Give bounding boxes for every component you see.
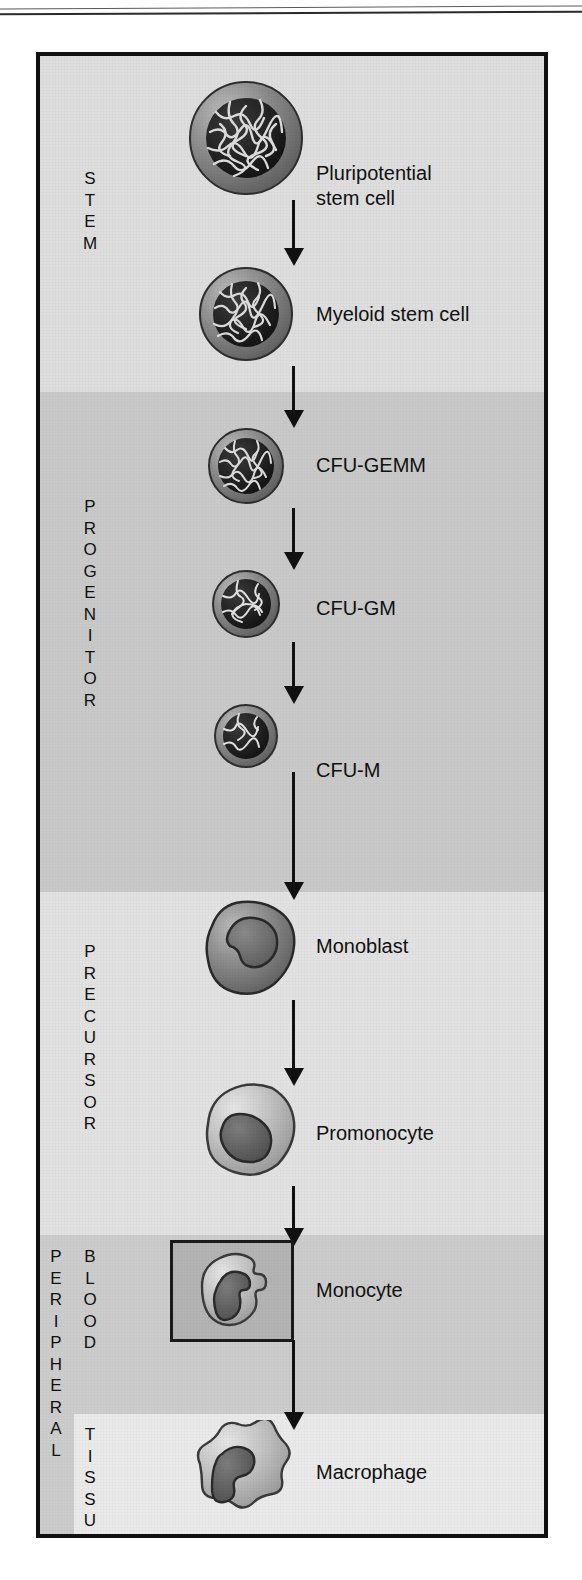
cell-myeloid-stem-cell	[196, 264, 296, 364]
compartment-label-progenitor: P R O G E N I T O R	[78, 496, 102, 711]
stage-label-myeloid-stem-cell: Myeloid stem cell	[316, 302, 469, 327]
cell-monoblast	[188, 896, 304, 1000]
page-rule-decoration	[0, 5, 582, 9]
stage-label-cfu-gemm: CFU-GEMM	[316, 453, 426, 478]
compartment-band-tissue	[40, 1414, 544, 1534]
cell-monocyte	[188, 1244, 280, 1338]
cell-cfu-m	[212, 702, 280, 770]
stage-label-macrophage: Macrophage	[316, 1460, 427, 1485]
stage-label-cfu-m: CFU-M	[316, 758, 380, 783]
compartment-label-blood: B L O O D	[78, 1246, 102, 1354]
compartment-label-precursor: P R E C U R S O R	[78, 941, 102, 1135]
stage-label-promonocyte: Promonocyte	[316, 1121, 434, 1146]
page-rule	[0, 11, 582, 16]
cell-pluripotential-stem-cell	[186, 78, 306, 198]
stage-label-monocyte: Monocyte	[316, 1278, 403, 1303]
cell-cfu-gm	[210, 568, 282, 640]
cell-cfu-gemm	[206, 426, 286, 506]
compartment-label-tissue: T I S S U E	[78, 1424, 102, 1538]
stage-label-cfu-gm: CFU-GM	[316, 596, 396, 621]
compartment-label-stem: S T E M	[78, 168, 102, 254]
cell-promonocyte	[188, 1078, 304, 1188]
stage-label-monoblast: Monoblast	[316, 934, 408, 959]
stage-label-pluripotential-stem-cell: Pluripotential stem cell	[316, 161, 432, 211]
compartment-label-peripheral: P E R I P H E R A L	[44, 1246, 68, 1461]
figure-frame: S T E M P R O G E N I T O R P R E C U R …	[36, 52, 548, 1538]
cell-macrophage	[182, 1420, 292, 1524]
